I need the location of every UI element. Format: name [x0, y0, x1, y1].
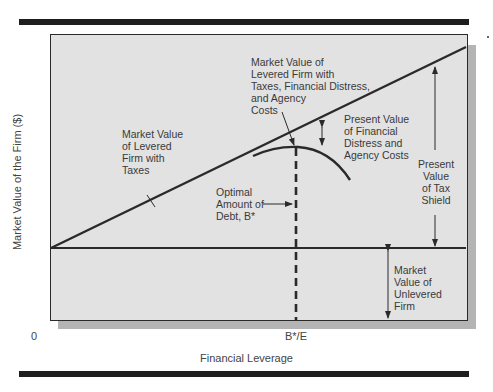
x-tick-zero: 0 [31, 330, 37, 342]
bottom-rule [19, 371, 469, 377]
label-unlevered: Market Value of Unlevered Firm [394, 264, 442, 312]
pointer-levered-all [282, 112, 294, 145]
label-optimal-debt: Optimal Amount of Debt, B* [216, 186, 264, 222]
x-tick-optimal: B*/E [285, 330, 307, 342]
label-levered-all: Market Value of Levered Firm with Taxes,… [251, 56, 370, 116]
label-pv-tax-shield: Present Value of Tax Shield [414, 158, 458, 206]
x-axis-label: Financial Leverage [0, 352, 493, 364]
label-pv-distress: Present Value of Financial Distress and … [344, 113, 409, 161]
levered-distress-curve [253, 147, 350, 180]
label-levered-taxes: Market Value of Levered Firm with Taxes [122, 128, 183, 176]
y-axis-label: Market Value of the Firm ($) [11, 107, 23, 257]
